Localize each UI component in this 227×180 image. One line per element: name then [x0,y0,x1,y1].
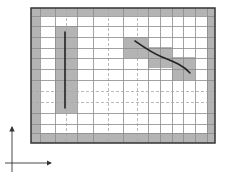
curve-cells-2 [148,47,172,68]
raster-grid-diagram [0,0,227,180]
